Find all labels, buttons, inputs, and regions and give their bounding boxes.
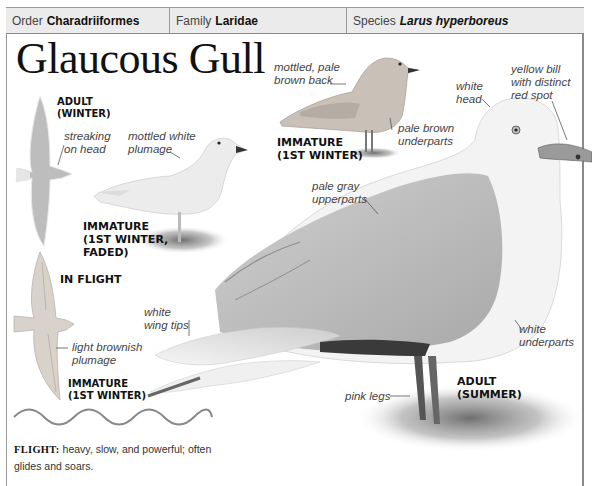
immature-1st-winter-label: IMMATURE (1ST WINTER) (277, 136, 363, 162)
immature-faded-label: IMMATURE (1ST WINTER, FADED) (83, 220, 168, 259)
pink-legs-caption: pink legs (345, 390, 390, 403)
immature-flight-label: IMMATURE (1ST WINTER) (68, 378, 146, 402)
light-brownish-caption: light brownish plumage (72, 341, 142, 367)
yellow-bill-caption: yellow bill with distinct red spot (511, 63, 570, 102)
adult-summer-label: ADULT (SUMMER) (457, 375, 522, 401)
flight-pattern-wave (14, 410, 212, 425)
in-flight-label: IN FLIGHT (60, 273, 121, 286)
streaking-caption: streaking on head (64, 130, 111, 156)
mottled-brown-back-caption: mottled, pale brown back (274, 61, 340, 87)
white-head-caption: white head (456, 80, 483, 106)
white-underparts-caption: white underparts (519, 323, 574, 349)
flight-description: FLIGHT: heavy, slow, and powerful; often… (14, 441, 224, 474)
pale-brown-underparts-caption: pale brown underparts (398, 122, 454, 148)
pale-gray-upperparts-caption: pale gray upperparts (312, 180, 367, 206)
mottled-white-caption: mottled white plumage (128, 130, 196, 156)
flight-keyword: FLIGHT: (14, 444, 60, 455)
field-guide-page: Order Charadriiformes Family Laridae Spe… (0, 0, 592, 486)
adult-winter-label: ADULT (WINTER) (57, 96, 111, 120)
white-wing-tips-caption: white wing tips (144, 306, 189, 332)
